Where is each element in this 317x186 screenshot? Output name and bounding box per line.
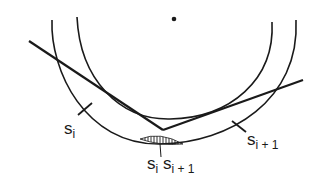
label-s-i-s-i-plus-1: si si + 1	[147, 155, 194, 175]
tangent-line-left	[29, 41, 163, 130]
inner-arc-s-i-plus-1	[77, 17, 272, 119]
diagram-canvas: si si + 1 si si + 1	[0, 0, 317, 186]
label-s-i: si	[64, 120, 75, 140]
center-point	[172, 17, 177, 22]
label-s-i-plus-1: si + 1	[247, 131, 279, 151]
